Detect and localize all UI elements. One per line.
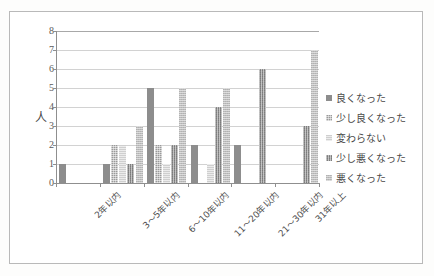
legend-swatch-icon xyxy=(326,155,332,161)
legend-item[interactable]: 少し悪くなった xyxy=(326,148,422,168)
bar xyxy=(127,164,134,183)
bar xyxy=(311,50,318,183)
y-axis-tick-mark xyxy=(53,88,56,89)
legend-swatch-icon xyxy=(326,135,332,141)
y-axis-tick-label: 4 xyxy=(40,102,54,112)
x-axis-tick-mark xyxy=(56,183,57,187)
bar xyxy=(147,88,154,183)
gridline xyxy=(56,107,319,108)
bar xyxy=(171,145,178,183)
bar xyxy=(179,88,186,183)
legend-item-label: 少し悪くなった xyxy=(336,153,406,164)
legend-item[interactable]: 良くなった xyxy=(326,88,422,108)
legend-item[interactable]: 変わらない xyxy=(326,128,422,148)
gridline xyxy=(56,50,319,51)
y-axis-line xyxy=(56,31,57,184)
bar xyxy=(303,126,310,183)
y-axis-tick-label: 0 xyxy=(40,178,54,188)
scanned-page: 人 012345678 2年以内3〜5年以内6〜10年以内11〜20年以内21〜… xyxy=(0,0,434,276)
x-axis-tick-mark xyxy=(144,183,145,187)
bar xyxy=(155,145,162,183)
bar xyxy=(59,164,66,183)
legend-item-label: 少し良くなった xyxy=(336,113,406,124)
y-axis-tick-label: 1 xyxy=(40,159,54,169)
gridline xyxy=(56,126,319,127)
bar xyxy=(207,164,214,183)
y-axis-tick-label: 7 xyxy=(40,45,54,55)
bar xyxy=(223,88,230,183)
x-axis-tick-mark xyxy=(100,183,101,187)
legend-item[interactable]: 少し良くなった xyxy=(326,108,422,128)
bar xyxy=(234,145,241,183)
bar xyxy=(136,126,143,183)
gridline xyxy=(56,31,319,32)
gridline xyxy=(56,88,319,89)
legend-swatch-icon xyxy=(326,175,332,181)
y-axis-tick-mark xyxy=(53,107,56,108)
chart-frame: 人 012345678 2年以内3〜5年以内6〜10年以内11〜20年以内21〜… xyxy=(9,11,423,264)
bar xyxy=(103,164,110,183)
y-axis-tick-label: 6 xyxy=(40,64,54,74)
y-axis-tick-label: 8 xyxy=(40,26,54,36)
x-axis-category-label: 3〜5年以内 xyxy=(141,190,182,231)
bar xyxy=(215,107,222,183)
y-axis-tick-mark xyxy=(53,31,56,32)
gridline xyxy=(56,69,319,70)
y-axis-tick-label: 2 xyxy=(40,140,54,150)
bar xyxy=(259,69,266,183)
x-axis-category-label: 2年以内 xyxy=(93,190,123,220)
x-axis-tick-mark xyxy=(319,183,320,187)
y-axis-tick-mark xyxy=(53,164,56,165)
plot-area xyxy=(56,31,319,183)
y-axis-tick-mark xyxy=(53,50,56,51)
bar xyxy=(191,145,198,183)
x-axis-tick-mark xyxy=(188,183,189,187)
y-axis-tick-mark xyxy=(53,69,56,70)
y-axis-tick-mark xyxy=(53,126,56,127)
legend-item-label: 悪くなった xyxy=(336,173,386,184)
x-axis-tick-mark xyxy=(275,183,276,187)
legend-item[interactable]: 悪くなった xyxy=(326,168,422,188)
y-axis-tick-mark xyxy=(53,145,56,146)
x-axis-category-label: 11〜20年以内 xyxy=(232,190,281,239)
bar xyxy=(119,145,126,183)
chart-legend: 良くなった少し良くなった変わらない少し悪くなった悪くなった xyxy=(326,88,422,188)
legend-item-label: 変わらない xyxy=(336,133,386,144)
gridline xyxy=(56,145,319,146)
x-axis-tick-mark xyxy=(231,183,232,187)
bar xyxy=(111,145,118,183)
bar xyxy=(163,164,170,183)
legend-swatch-icon xyxy=(326,95,332,101)
gridline xyxy=(56,164,319,165)
y-axis-tick-label: 5 xyxy=(40,83,54,93)
legend-swatch-icon xyxy=(326,115,332,121)
x-axis-category-label: 6〜10年以内 xyxy=(186,190,231,235)
y-axis-tick-label: 3 xyxy=(40,121,54,131)
y-axis-tick-labels: 012345678 xyxy=(36,31,54,183)
legend-item-label: 良くなった xyxy=(336,93,386,104)
